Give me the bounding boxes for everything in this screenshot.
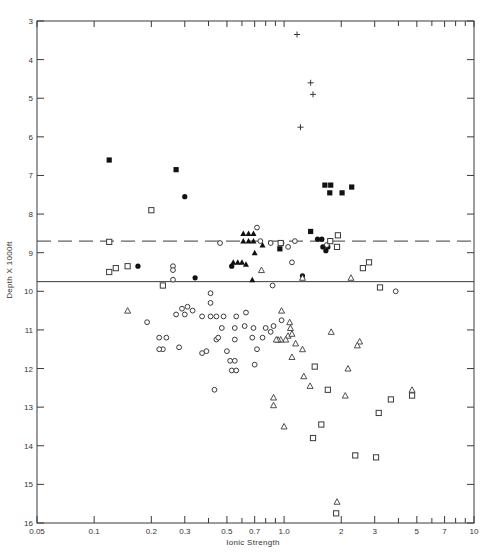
open-square-marker	[113, 266, 118, 271]
y-tick-label: 11	[25, 326, 34, 335]
open-circle-marker	[244, 310, 249, 315]
open-circle-marker	[393, 289, 398, 294]
y-tick-label: 8	[29, 210, 34, 219]
y-tick-label: 4	[29, 56, 34, 65]
open-circle-marker	[271, 324, 276, 329]
open-square-marker	[335, 233, 340, 238]
x-tick-label: 7	[442, 527, 447, 536]
y-tick-label: 7	[29, 171, 34, 180]
filled-square-marker	[173, 167, 178, 172]
open-circle-marker	[212, 387, 217, 392]
x-tick-label: 0.1	[89, 527, 101, 536]
open-circle-marker	[255, 347, 260, 352]
open-circle-marker	[232, 358, 237, 363]
open-square-marker	[310, 435, 315, 440]
x-axis-ticks: 0.050.10.20.30.50.71.0235710	[29, 21, 479, 536]
open-triangle-marker	[271, 402, 277, 408]
y-tick-label: 12	[24, 365, 33, 374]
reference-lines	[37, 241, 474, 282]
open-square-marker	[353, 453, 358, 458]
open-circle-marker	[228, 358, 233, 363]
y-axis-title: Depth X 1000ft	[5, 241, 14, 299]
open-circle-marker	[190, 308, 195, 313]
open-triangle-marker	[279, 308, 285, 314]
open-square-marker	[149, 208, 154, 213]
open-circle-marker	[225, 349, 230, 354]
filled-square-marker	[107, 157, 112, 162]
open-circle-marker	[171, 277, 176, 282]
open-circle-marker	[251, 326, 256, 331]
filled-triangle-marker	[239, 259, 245, 265]
open-circle-marker	[157, 335, 162, 340]
open-circle-marker	[200, 314, 205, 319]
open-square-marker	[107, 269, 112, 274]
open-circle-marker	[145, 320, 150, 325]
plus-marker	[297, 124, 303, 130]
open-triangle-marker	[348, 275, 354, 281]
open-circle-marker	[270, 283, 275, 288]
filled-triangle-marker	[249, 277, 255, 283]
open-circle-marker	[177, 345, 182, 350]
y-tick-label: 9	[29, 249, 34, 258]
filled-triangle-marker	[240, 230, 246, 236]
x-tick-label: 3	[372, 527, 377, 536]
open-circle-marker	[290, 260, 295, 265]
open-circle-marker	[182, 312, 187, 317]
open-circle-marker	[171, 268, 176, 273]
open-circle-marker	[219, 326, 224, 331]
y-tick-label: 3	[29, 17, 34, 26]
x-tick-label: 1.0	[279, 527, 291, 536]
x-tick-label: 0.05	[29, 527, 45, 536]
scatter-chart: 0.050.10.20.30.50.71.0235710 34567891011…	[0, 0, 494, 560]
open-triangle-marker	[301, 373, 307, 379]
open-circle-marker	[221, 314, 226, 319]
open-triangle-marker	[281, 423, 287, 429]
open-triangle-marker	[342, 393, 348, 399]
open-circle-marker	[214, 314, 219, 319]
y-tick-label: 10	[24, 287, 33, 296]
open-circle-marker	[180, 306, 185, 311]
x-tick-label: 0.2	[146, 527, 158, 536]
open-square-marker	[319, 422, 324, 427]
open-circle-marker	[164, 335, 169, 340]
y-tick-label: 14	[24, 442, 33, 451]
filled-triangle-marker	[250, 230, 256, 236]
plot-frame	[37, 21, 474, 523]
open-triangle-marker	[289, 354, 295, 360]
x-tick-label: 10	[470, 527, 479, 536]
open-circle-marker	[174, 312, 179, 317]
open-square-marker	[377, 285, 382, 290]
open-triangle-marker	[293, 340, 299, 346]
filled-circle-marker	[135, 264, 140, 269]
open-square-marker	[366, 260, 371, 265]
filled-square-marker	[322, 183, 327, 188]
open-square-marker	[373, 455, 378, 460]
open-circle-marker	[208, 300, 213, 305]
open-triangle-marker	[287, 319, 293, 325]
open-square-marker	[107, 239, 112, 244]
chart-canvas: 0.050.10.20.30.50.71.0235710 34567891011…	[0, 0, 494, 560]
open-circle-marker	[234, 368, 239, 373]
y-tick-label: 13	[24, 403, 33, 412]
open-triangle-marker	[409, 387, 415, 393]
open-circle-marker	[218, 241, 223, 246]
open-circle-marker	[200, 351, 205, 356]
open-triangle-marker	[125, 308, 131, 314]
open-circle-marker	[286, 245, 291, 250]
open-triangle-marker	[299, 346, 305, 352]
filled-circle-marker	[319, 237, 324, 242]
filled-square-marker	[327, 190, 332, 195]
open-triangle-marker	[287, 325, 293, 331]
open-circle-marker	[216, 335, 221, 340]
open-circle-marker	[252, 362, 257, 367]
filled-square-marker	[339, 190, 344, 195]
open-triangle-marker	[289, 331, 295, 337]
open-circle-marker	[232, 337, 237, 342]
open-circle-marker	[208, 314, 213, 319]
y-axis-ticks: 345678910111213141516	[24, 17, 474, 528]
plus-marker	[294, 32, 300, 38]
open-circle-marker	[255, 225, 260, 230]
open-triangle-marker	[271, 395, 277, 401]
y-tick-label: 15	[24, 480, 33, 489]
y-tick-label: 5	[29, 94, 34, 103]
